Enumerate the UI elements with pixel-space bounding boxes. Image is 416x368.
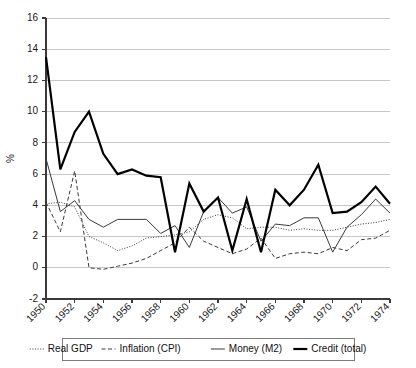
- x-tick-label-1966: 1966: [253, 300, 277, 324]
- x-tick-label-1970: 1970: [311, 300, 335, 324]
- y-tick-label-14: 14: [27, 43, 39, 54]
- legend-label: Money (M2): [229, 343, 282, 354]
- x-tick-label-1962: 1962: [196, 300, 220, 324]
- x-tick-label-1974: 1974: [368, 300, 392, 324]
- chart-container: -20246810121416 195019521954195619581960…: [0, 0, 416, 368]
- y-tick-label-0: 0: [32, 261, 38, 272]
- x-tick-label-1972: 1972: [339, 300, 363, 324]
- x-tick-label-1956: 1956: [110, 300, 134, 324]
- y-tick-label-8: 8: [32, 137, 38, 148]
- x-tick-label-1950: 1950: [24, 300, 48, 324]
- economic-indicators-line-chart: -20246810121416 195019521954195619581960…: [0, 0, 416, 368]
- axes-group: [42, 18, 390, 303]
- y-tick-label-16: 16: [27, 12, 39, 23]
- y-axis-title: %: [5, 154, 16, 163]
- x-tick-labels-group: 1950195219541956195819601962196419661968…: [24, 300, 392, 324]
- series-line-inflation-cpi: [46, 171, 390, 269]
- chart-legend: Real GDPInflation (CPI)Money (M2)Credit …: [30, 338, 367, 360]
- gridlines-group: [46, 18, 390, 268]
- series-line-credit-total: [46, 57, 390, 252]
- legend-item-real-gdp[interactable]: Real GDP: [30, 343, 93, 354]
- y-tick-label-6: 6: [32, 168, 38, 179]
- legend-label: Credit (total): [311, 343, 366, 354]
- x-tick-label-1960: 1960: [167, 300, 191, 324]
- x-tick-label-1958: 1958: [139, 300, 163, 324]
- x-tick-label-1964: 1964: [225, 300, 249, 324]
- y-tick-label-10: 10: [27, 105, 39, 116]
- y-tick-label-12: 12: [27, 74, 39, 85]
- x-tick-label-1952: 1952: [53, 300, 77, 324]
- y-tick-label-2: 2: [32, 230, 38, 241]
- x-tick-label-1954: 1954: [81, 300, 105, 324]
- legend-background: [62, 338, 354, 360]
- data-series-group: [46, 57, 390, 269]
- y-tick-label-4: 4: [32, 199, 38, 210]
- legend-label: Real GDP: [48, 343, 93, 354]
- series-line-real-gdp: [46, 202, 390, 250]
- y-tick-labels-group: -20246810121416: [27, 12, 39, 304]
- legend-label: Inflation (CPI): [120, 343, 181, 354]
- y-axis-title-group: %: [5, 154, 16, 163]
- x-tick-label-1968: 1968: [282, 300, 306, 324]
